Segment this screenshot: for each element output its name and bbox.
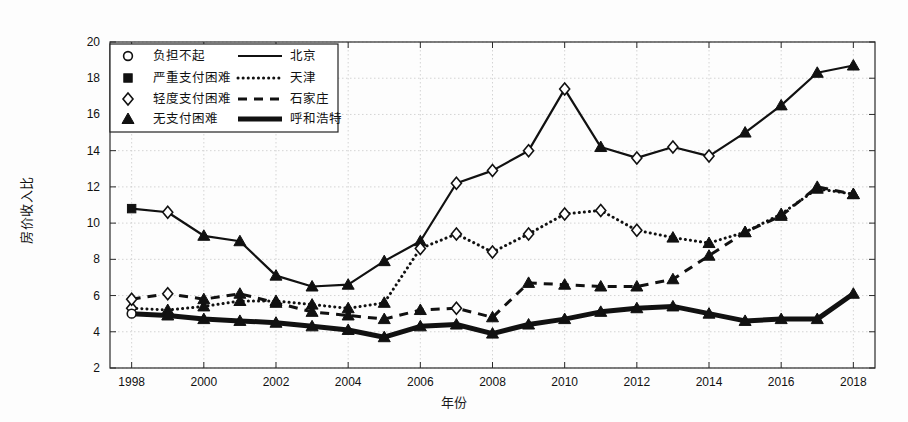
data-point-marker xyxy=(847,288,859,299)
x-tick-label: 1998 xyxy=(118,375,145,389)
data-point-marker xyxy=(488,246,498,258)
data-point-marker xyxy=(163,206,173,218)
legend-series-label: 呼和浩特 xyxy=(290,111,342,126)
x-tick-label: 2002 xyxy=(263,375,290,389)
data-point-marker xyxy=(163,288,173,300)
data-point-marker xyxy=(560,208,570,220)
data-point-marker xyxy=(811,181,823,192)
legend-series-label: 石家庄 xyxy=(290,91,329,106)
data-point-marker xyxy=(451,302,461,314)
data-point-marker xyxy=(632,152,642,164)
legend-series-label: 天津 xyxy=(290,70,316,85)
y-tick-label: 8 xyxy=(93,252,100,266)
line-chart-canvas: 2468101214161820199820002002200420062008… xyxy=(0,0,908,422)
y-axis-label: 房价收入比 xyxy=(16,176,35,244)
y-tick-label: 16 xyxy=(87,107,101,121)
x-tick-label: 2014 xyxy=(696,375,723,389)
data-point-marker xyxy=(596,204,606,216)
x-axis-label: 年份 xyxy=(0,392,908,411)
y-tick-label: 20 xyxy=(87,35,101,49)
data-point-marker xyxy=(488,165,498,177)
data-point-marker xyxy=(234,288,246,299)
legend-marker-label: 负担不起 xyxy=(153,48,205,63)
data-point-marker xyxy=(198,230,210,241)
legend-marker-label: 轻度支付困难 xyxy=(153,91,231,106)
data-point-marker xyxy=(524,228,534,240)
data-point-marker xyxy=(414,304,426,315)
legend-marker-label: 严重支付困难 xyxy=(153,70,231,85)
x-tick-label: 2010 xyxy=(551,375,578,389)
x-tick-label: 2004 xyxy=(335,375,362,389)
data-point-marker xyxy=(632,224,642,236)
y-tick-label: 10 xyxy=(87,216,101,230)
x-tick-label: 2018 xyxy=(840,375,867,389)
x-tick-label: 2008 xyxy=(479,375,506,389)
x-tick-label: 2006 xyxy=(407,375,434,389)
y-axis-label-wrap: 房价收入比 xyxy=(14,130,36,290)
y-tick-label: 4 xyxy=(93,325,100,339)
x-tick-label: 2016 xyxy=(768,375,795,389)
x-tick-label: 2000 xyxy=(190,375,217,389)
legend-marker-label: 无支付困难 xyxy=(153,111,218,126)
x-tick-label: 2012 xyxy=(623,375,650,389)
data-point-marker xyxy=(704,150,714,162)
data-point-marker xyxy=(127,293,137,305)
legend-series-label: 北京 xyxy=(290,48,316,63)
data-point-marker xyxy=(378,255,390,266)
data-point-marker xyxy=(847,60,859,70)
legend-square-filled-marker xyxy=(124,74,132,82)
y-tick-label: 6 xyxy=(93,289,100,303)
chart-figure: 2468101214161820199820002002200420062008… xyxy=(0,0,908,422)
data-point-marker xyxy=(451,228,461,240)
y-tick-label: 2 xyxy=(93,361,100,375)
y-tick-label: 18 xyxy=(87,71,101,85)
y-tick-label: 12 xyxy=(87,180,101,194)
data-point-marker xyxy=(667,232,679,243)
chart-legend: 负担不起严重支付困难轻度支付困难无支付困难北京天津石家庄呼和浩特 xyxy=(110,44,342,132)
data-point-marker xyxy=(127,309,136,318)
y-tick-label: 14 xyxy=(87,144,101,158)
data-point-marker xyxy=(595,141,607,152)
data-point-marker xyxy=(668,141,678,153)
legend-circle-open-marker xyxy=(124,52,133,61)
data-point-marker xyxy=(127,204,135,212)
